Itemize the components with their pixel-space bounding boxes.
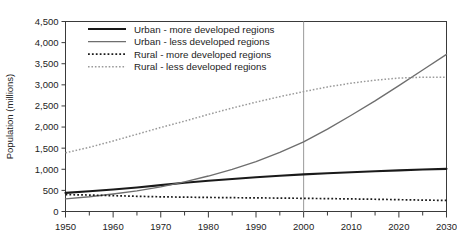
y-axis-tick-label: 3,500 <box>35 58 59 69</box>
chart-canvas: 05001,0001,5002,0002,5003,0003,5004,0004… <box>0 0 457 248</box>
legend-label-rural-less-developed: Rural - less developed regions <box>134 61 266 72</box>
x-axis: 195019601970198019902000201020202030 <box>55 212 457 232</box>
y-axis-tick-label: 1,000 <box>35 164 59 175</box>
x-axis-tick-label: 1990 <box>245 221 266 232</box>
legend-label-urban-less-developed: Urban - less developed regions <box>134 36 270 47</box>
legend-label-urban-more-developed: Urban - more developed regions <box>134 24 275 35</box>
x-axis-tick-label: 2020 <box>388 221 409 232</box>
y-axis-title: Population (millions) <box>4 74 15 160</box>
y-axis-tick-label: 4,500 <box>35 16 59 27</box>
x-axis-tick-label: 2000 <box>293 221 314 232</box>
x-axis-tick-label: 1970 <box>150 221 171 232</box>
legend-label-rural-more-developed: Rural - more developed regions <box>134 49 271 60</box>
x-axis-tick-label: 1980 <box>198 221 219 232</box>
x-axis-tick-label: 1960 <box>103 221 124 232</box>
y-axis-tick-label: 1,500 <box>35 143 59 154</box>
y-axis-tick-label: 3,000 <box>35 79 59 90</box>
population-line-chart: 05001,0001,5002,0002,5003,0003,5004,0004… <box>0 0 457 248</box>
y-axis: 05001,0001,5002,0002,5003,0003,5004,0004… <box>35 16 66 217</box>
y-axis-tick-label: 4,000 <box>35 37 59 48</box>
x-axis-tick-label: 1950 <box>55 221 76 232</box>
y-axis-tick-label: 0 <box>53 206 58 217</box>
y-axis-tick-label: 500 <box>43 185 59 196</box>
y-axis-tick-label: 2,500 <box>35 100 59 111</box>
x-axis-tick-label: 2030 <box>436 221 457 232</box>
x-axis-tick-label: 2010 <box>341 221 362 232</box>
y-axis-tick-label: 2,000 <box>35 121 59 132</box>
